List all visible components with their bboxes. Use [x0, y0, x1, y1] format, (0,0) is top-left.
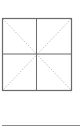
grid-diagonal-icon — [0, 0, 83, 129]
